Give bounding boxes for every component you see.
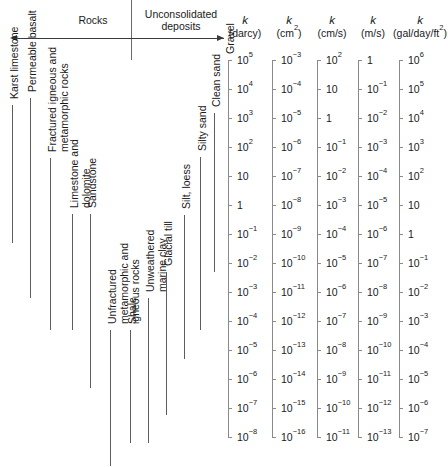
axis-tick-label: 10−5 (367, 200, 387, 210)
axis-tick-label: 10−7 (237, 403, 257, 413)
axis-tick-label: 102 (237, 142, 253, 152)
axis-tick (272, 379, 276, 380)
axis-tick (317, 147, 321, 148)
scale-column-cms: k(cm/s)10210110−110−210−310−410−510−610−… (308, 0, 356, 467)
axis-tick-label: 102 (326, 55, 342, 65)
scale-header: k(cm2) (264, 14, 314, 40)
axis-tick (399, 379, 403, 380)
scale-header: k(m/s) (350, 14, 396, 40)
axis-tick (228, 89, 232, 90)
axis-tick (399, 350, 403, 351)
category-label: Shale (127, 174, 139, 324)
axis-tick (317, 234, 321, 235)
axis-tick (317, 321, 321, 322)
axis-tick (358, 437, 362, 438)
category-label: Permeable basalt (27, 0, 39, 92)
category-range-bar (72, 214, 73, 330)
axis-tick (228, 379, 232, 380)
axis-tick-label: 10−6 (237, 374, 257, 384)
axis-tick (399, 147, 403, 148)
axis-tick-label: 104 (408, 113, 424, 123)
scale-header: k(darcy) (222, 14, 268, 40)
scale-unit: (cm/s) (317, 27, 346, 39)
scale-header: k(gal/day/ft2) (392, 14, 448, 40)
scale-header: k(cm/s) (308, 14, 356, 40)
axis-tick (399, 60, 403, 61)
axis-tick (358, 118, 362, 119)
axis-tick (272, 176, 276, 177)
category-range-bar (50, 158, 51, 330)
axis-tick (228, 350, 232, 351)
scale-column-darcy: k(darcy)10510410310210110−110−210−310−41… (222, 0, 268, 467)
axis-tick (228, 147, 232, 148)
axis-tick-label: 10−3 (367, 142, 387, 152)
axis-tick (399, 205, 403, 206)
axis-tick-label: 10−7 (408, 432, 428, 442)
axis-tick-label: 10−8 (281, 200, 301, 210)
axis-tick (399, 234, 403, 235)
axis-tick (399, 89, 403, 90)
axis-tick (272, 321, 276, 322)
axis-tick (228, 292, 232, 293)
category-label: Fractured igneous and metamorphic rocks (47, 2, 70, 152)
axis-tick (399, 292, 403, 293)
category-range-bar (148, 298, 149, 443)
axis-tick (228, 234, 232, 235)
axis-tick (317, 118, 321, 119)
axis-tick-label: 10−1 (326, 142, 346, 152)
category-range-bar (12, 105, 13, 243)
axis-tick (358, 176, 362, 177)
axis-tick (399, 321, 403, 322)
axis-tick (358, 321, 362, 322)
axis-tick-label: 10−14 (281, 374, 305, 384)
axis-tick-label: 10−1 (408, 258, 428, 268)
axis-tick-label: 10−8 (237, 432, 257, 442)
axis-tick (272, 205, 276, 206)
axis-tick-label: 10−5 (281, 113, 301, 123)
axis-tick (358, 350, 362, 351)
scale-axis-line (399, 60, 400, 437)
scale-symbol: k (308, 14, 356, 27)
axis-tick-label: 10−7 (326, 316, 346, 326)
axis-tick-label: 10−3 (281, 55, 301, 65)
axis-tick (358, 292, 362, 293)
axis-tick (272, 89, 276, 90)
axis-tick (317, 205, 321, 206)
axis-tick-label: 10−9 (367, 316, 387, 326)
axis-tick-label: 106 (408, 55, 424, 65)
axis-tick-label: 105 (408, 84, 424, 94)
category-label: Clean sand (211, 0, 223, 107)
category-range-bar (200, 157, 201, 330)
axis-tick-label: 10−3 (408, 316, 428, 326)
category-range-bar (184, 215, 185, 359)
axis-tick-label: 10−2 (408, 287, 428, 297)
axis-tick-label: 10−10 (281, 258, 305, 268)
scale-symbol: k (350, 14, 396, 27)
axis-tick-label: 10−16 (281, 432, 305, 442)
axis-tick-label: 10−5 (326, 258, 346, 268)
category-range-bar (110, 330, 111, 466)
axis-tick-label: 104 (237, 84, 253, 94)
axis-tick-label: 10−6 (408, 403, 428, 413)
category-label: Karst limestone (9, 0, 21, 99)
axis-tick (228, 118, 232, 119)
axis-tick-label: 10−8 (326, 345, 346, 355)
axis-tick (272, 60, 276, 61)
axis-tick (358, 89, 362, 90)
axis-tick-label: 10−15 (281, 403, 305, 413)
axis-tick-label: 10−4 (326, 229, 346, 239)
axis-tick (399, 176, 403, 177)
category-range-bar (166, 272, 167, 415)
axis-tick-label: 10−1 (237, 229, 257, 239)
category-label: Sandstone (87, 58, 99, 208)
axis-tick-label: 10−6 (326, 287, 346, 297)
axis-tick-label: 10 (237, 171, 249, 181)
group-label-rocks: Rocks (62, 14, 124, 26)
category-label: Glacial till (163, 116, 175, 266)
axis-tick-label: 1 (408, 229, 414, 239)
axis-tick (272, 263, 276, 264)
axis-tick (317, 379, 321, 380)
axis-tick-label: 10 (408, 200, 420, 210)
axis-tick-label: 10−7 (367, 258, 387, 268)
axis-tick (399, 118, 403, 119)
